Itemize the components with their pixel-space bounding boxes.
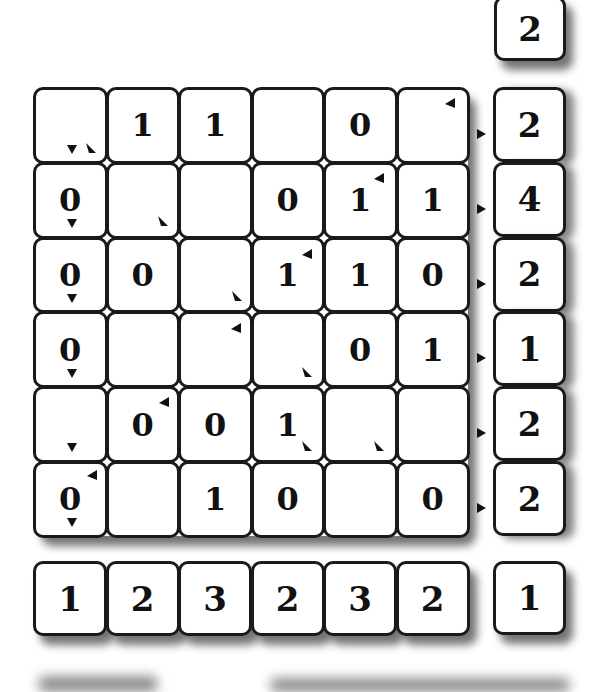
row-clue-tile: 2 [493,386,566,461]
grid-cell-value: 1 [277,406,299,444]
grid-cell-value: 0 [349,106,371,144]
grid-cell[interactable]: 0 [323,87,398,164]
grid-cell-value: 1 [349,181,371,219]
row-clue-tile: 2 [493,87,566,162]
arrow-right-icon [477,353,486,363]
grid-cell-value: 0 [422,256,444,294]
row-clue-tile: 1 [493,311,566,386]
arrow-down-icon [67,369,77,378]
grid-cell-value: 0 [132,406,154,444]
grid-cell[interactable] [251,87,326,164]
grid-cell-value: 0 [422,480,444,518]
grid-cell-value: 1 [422,181,444,219]
row-clue-value: 2 [518,105,542,145]
column-clue-tile: 3 [323,561,397,636]
grid-cell[interactable] [323,461,398,538]
grid-cell-value: 1 [349,256,371,294]
grid-cell-value: 0 [59,480,81,518]
grid-cell-value: 0 [277,181,299,219]
grid-cell[interactable] [178,311,253,388]
corner-clue-value: 1 [518,578,542,618]
grid-cell[interactable] [178,162,253,239]
top-clue-tile: 2 [494,0,566,61]
grid-cell[interactable]: 0 [396,237,471,314]
grid-cell-value: 1 [277,256,299,294]
grid-cell-value: 0 [277,480,299,518]
arrow-down-icon [67,145,77,154]
column-clue-tile: 2 [251,561,325,636]
grid-cell[interactable] [396,87,471,164]
grid-cell-value: 0 [59,331,81,369]
grid-cell-value: 1 [422,331,444,369]
column-clue-tile: 2 [396,561,470,636]
grid-cell-value: 0 [349,331,371,369]
grid-cell-value: 0 [132,256,154,294]
row-clue-value: 2 [518,254,542,294]
column-clue-value: 2 [421,579,445,619]
grid-cell[interactable]: 1 [178,461,253,538]
grid-cell[interactable]: 1 [396,311,471,388]
grid-cell-value: 1 [204,106,226,144]
grid-cell[interactable]: 0 [396,461,471,538]
grid-cell[interactable]: 0 [106,237,181,314]
grid-cell[interactable]: 1 [251,237,326,314]
column-clue-value: 3 [203,579,227,619]
arrow-down-icon [67,443,77,452]
column-clue-value: 3 [348,579,372,619]
grid-cell[interactable] [323,386,398,463]
column-clue-tile: 2 [106,561,180,636]
grid-cell[interactable] [106,311,181,388]
row-clue-value: 2 [518,404,542,444]
arrow-right-icon [477,503,486,513]
grid-cell[interactable] [106,461,181,538]
grid-cell[interactable] [178,237,253,314]
row-clue-value: 2 [518,479,542,519]
row-clue-tile: 2 [493,237,566,312]
arrow-right-icon [477,129,486,139]
grid-cell[interactable]: 1 [106,87,181,164]
row-clue-tile: 4 [493,162,566,237]
column-clue-value: 2 [131,579,155,619]
arrow-right-icon [477,204,486,214]
grid-cell[interactable]: 1 [396,162,471,239]
column-clue-value: 1 [58,579,82,619]
grid-cell[interactable]: 1 [251,386,326,463]
grid-cell-value: 0 [204,406,226,444]
column-clue-tile: 3 [178,561,252,636]
arrow-right-icon [477,279,486,289]
grid-cell-value: 0 [59,181,81,219]
grid-cell[interactable]: 0 [323,311,398,388]
partial-tile-shadow-left [38,676,158,692]
grid-cell-value: 1 [132,106,154,144]
puzzle-grid: 1100011001100010010100 [33,87,468,536]
column-clue-value: 2 [276,579,300,619]
grid-cell[interactable] [106,162,181,239]
row-clue-value: 1 [518,329,542,369]
corner-clue-tile: 1 [493,561,566,635]
grid-cell-value: 0 [59,256,81,294]
grid-cell[interactable]: 0 [178,386,253,463]
row-clue-tile: 2 [493,461,566,536]
grid-cell[interactable]: 1 [178,87,253,164]
grid-cell-value: 1 [204,480,226,518]
grid-cell[interactable]: 0 [251,162,326,239]
column-clue-tile: 1 [33,561,107,636]
grid-cell[interactable] [396,386,471,463]
arrow-down-icon [67,294,77,303]
grid-cell[interactable]: 0 [251,461,326,538]
arrow-down-icon [67,219,77,228]
grid-cell[interactable] [251,311,326,388]
top-clue-value: 2 [518,9,542,49]
arrow-right-icon [477,428,486,438]
partial-tile-shadow-right [270,678,570,692]
grid-cell[interactable]: 1 [323,237,398,314]
row-clue-value: 4 [518,179,542,219]
arrow-down-icon [67,518,77,527]
grid-cell[interactable]: 1 [323,162,398,239]
